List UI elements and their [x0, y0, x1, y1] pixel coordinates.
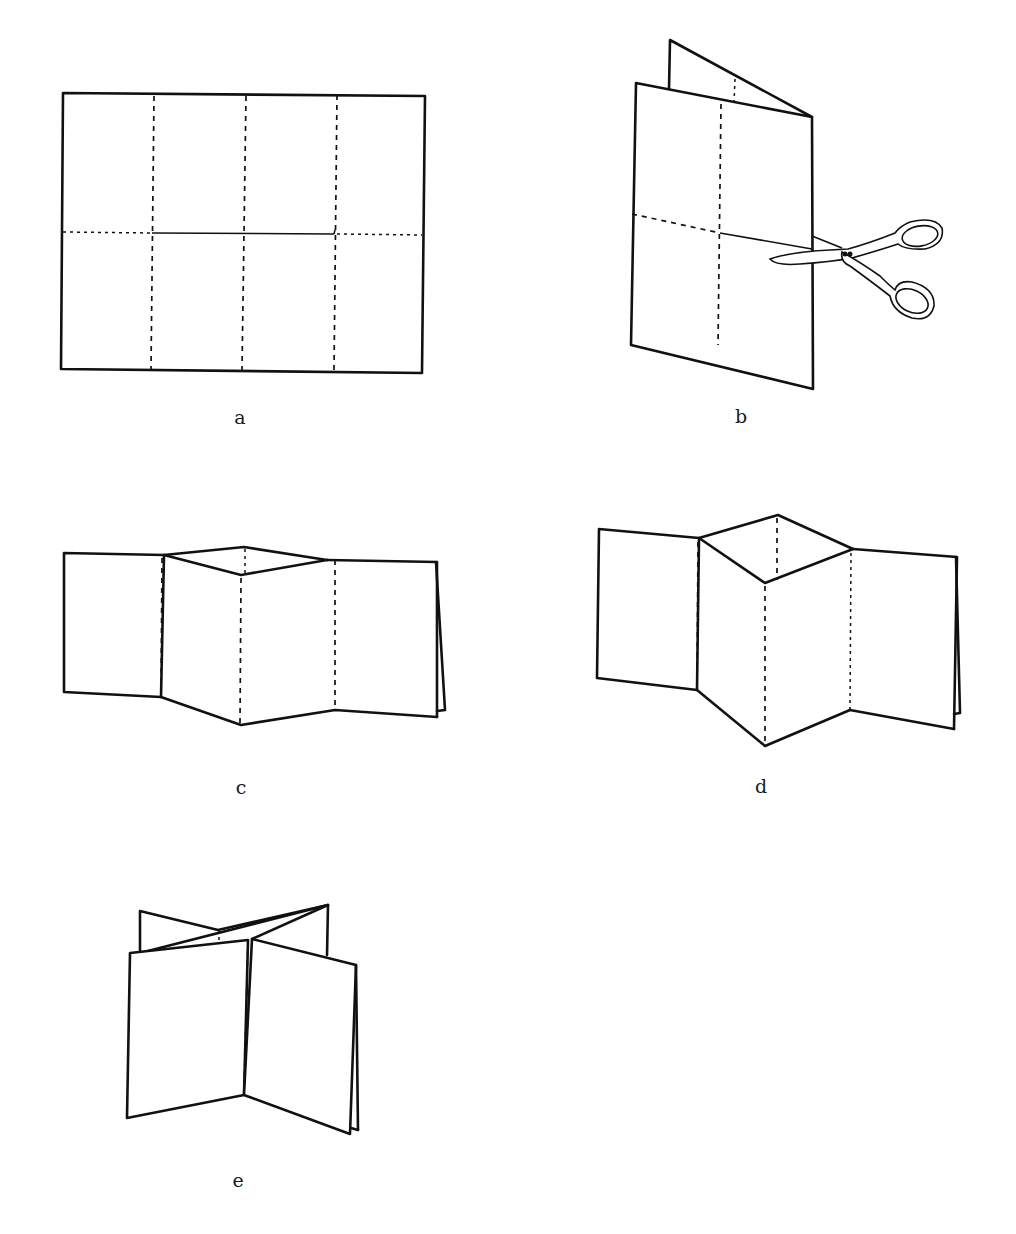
step-label-d: d [741, 776, 781, 796]
figure-c-zigzag [64, 547, 445, 725]
scissors-icon [770, 220, 942, 319]
step-label-a: a [220, 407, 260, 427]
figure-e-x-shape [127, 905, 358, 1134]
figure-a-drawing [61, 93, 425, 373]
step-label-c: c [221, 777, 261, 797]
step-label-b: b [721, 406, 761, 426]
figure-d-wider-opening [597, 515, 960, 746]
figure-a-flat-sheet [0, 0, 1016, 1234]
figure-b-folded-with-scissors [631, 40, 942, 389]
step-label-e: e [218, 1170, 258, 1190]
